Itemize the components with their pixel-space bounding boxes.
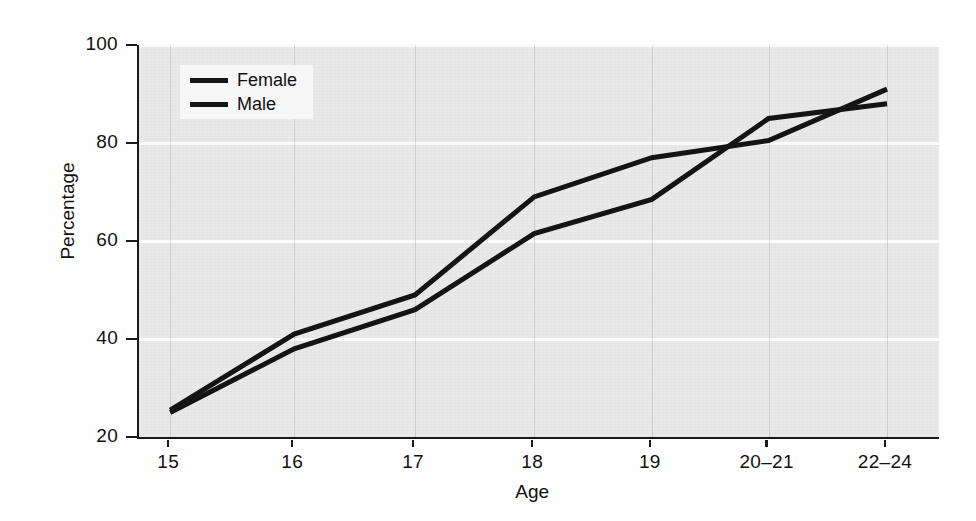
legend-swatch-female-icon <box>190 78 228 83</box>
x-axis-label: Age <box>472 481 592 503</box>
x-tick-mark <box>167 440 170 447</box>
x-tick-mark <box>884 440 887 447</box>
x-tick-label: 17 <box>353 451 473 473</box>
legend-item-female: Female <box>190 68 313 92</box>
chart-figure: Percentage 20406080100 Female Male 15161… <box>0 0 976 521</box>
series-line-female <box>170 89 887 410</box>
y-tick-label: 20 <box>58 425 118 447</box>
y-axis-label: Percentage <box>57 131 79 291</box>
y-tick-mark <box>126 44 137 47</box>
x-tick-mark <box>531 440 534 447</box>
series-line-male <box>170 104 887 413</box>
legend-label-male: Male <box>237 95 276 113</box>
x-tick-mark <box>291 440 294 447</box>
x-tick-label: 15 <box>108 451 228 473</box>
chart-legend: Female Male <box>180 65 313 119</box>
y-tick-mark <box>126 142 137 145</box>
y-tick-label: 40 <box>58 327 118 349</box>
plot-area: Female Male <box>137 45 939 439</box>
x-tick-mark <box>412 440 415 447</box>
x-tick-label: 20–21 <box>707 451 827 473</box>
legend-swatch-male-icon <box>190 102 228 107</box>
x-tick-mark <box>765 440 768 447</box>
y-tick-mark <box>126 338 137 341</box>
y-tick-label: 100 <box>58 33 118 55</box>
x-tick-label: 18 <box>472 451 592 473</box>
y-tick-mark <box>126 240 137 243</box>
y-tick-mark <box>126 436 137 439</box>
x-tick-label: 19 <box>590 451 710 473</box>
y-tick-label: 60 <box>58 229 118 251</box>
y-tick-label: 80 <box>58 131 118 153</box>
x-tick-mark <box>649 440 652 447</box>
x-tick-label: 22–24 <box>825 451 945 473</box>
legend-label-female: Female <box>237 71 297 89</box>
x-tick-label: 16 <box>232 451 352 473</box>
legend-item-male: Male <box>190 92 313 116</box>
